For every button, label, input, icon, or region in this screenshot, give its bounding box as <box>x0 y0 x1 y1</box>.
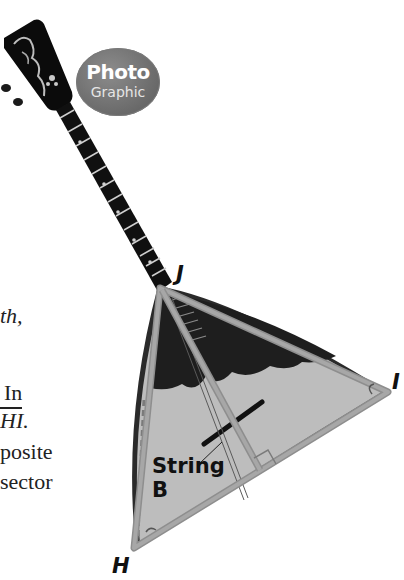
text-fragment-posite: posite <box>0 441 53 463</box>
badge-line1: Photo <box>76 60 160 84</box>
text-fragment-in: In <box>4 382 22 404</box>
vertex-label-j: J <box>176 262 184 286</box>
textbook-page: Photo Graphic J I H String B th, In HI. … <box>0 0 404 580</box>
neck <box>56 102 172 292</box>
text-fragment-hi: HI. <box>0 410 29 432</box>
string-label-line1: String <box>152 454 225 478</box>
vertex-label-i: I <box>392 370 400 394</box>
photo-graphic-badge: Photo Graphic <box>76 48 160 116</box>
vertex-label-h: H <box>112 554 130 578</box>
text-fragment-sector: sector <box>0 471 53 493</box>
badge-line2: Graphic <box>76 84 160 100</box>
text-fragment-th: th, <box>0 305 23 327</box>
string-b-label: String B <box>152 454 225 502</box>
headstock <box>1 20 73 111</box>
string-label-line2: B <box>152 478 225 502</box>
